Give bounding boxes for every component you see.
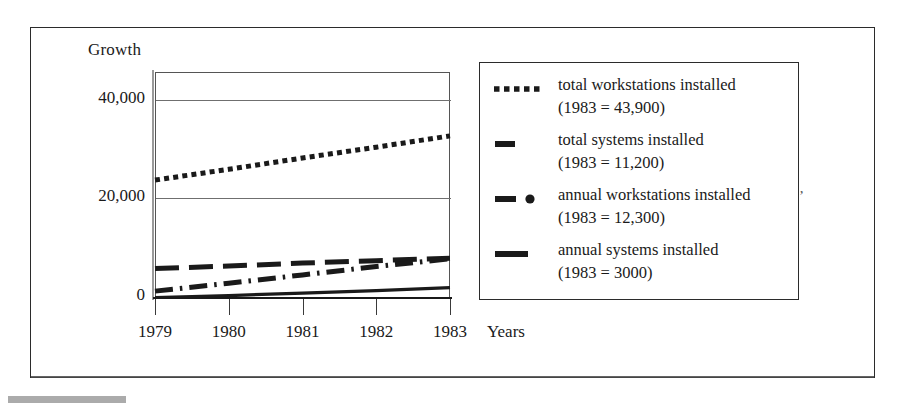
x-tick-1981 — [303, 299, 304, 315]
dotted-line-swatch — [492, 82, 548, 96]
legend: total workstations installed (1983 = 43,… — [479, 62, 799, 300]
legend-entry-annual-workstations[interactable]: annual workstations installed (1983 = 12… — [492, 185, 792, 235]
legend-sublabel: (1983 = 11,200) — [558, 151, 794, 174]
x-tick-1983 — [450, 299, 451, 315]
legend-label: annual systems installed — [558, 238, 794, 261]
series-line-0 — [155, 136, 450, 180]
legend-entry-total-systems[interactable]: total systems installed (1983 = 11,200) — [492, 130, 792, 180]
dash-dot-line-swatch — [492, 192, 548, 206]
legend-entry-annual-systems[interactable]: annual systems installed (1983 = 3000) — [492, 240, 792, 290]
y-tick-label-0: 0 — [55, 285, 145, 305]
x-tick-label-1979: 1979 — [125, 322, 185, 342]
legend-label: annual workstations installed — [558, 183, 794, 206]
legend-label: total workstations installed — [558, 73, 794, 96]
x-tick-label-1982: 1982 — [346, 322, 406, 342]
legend-sublabel: (1983 = 12,300) — [558, 206, 794, 229]
legend-text-block: annual systems installed (1983 = 3000) — [558, 238, 794, 284]
series-plot-lines — [155, 72, 450, 298]
short-dash-line-swatch — [492, 137, 548, 151]
series-line-3 — [155, 288, 450, 298]
x-tick-label-1981: 1981 — [273, 322, 333, 342]
x-tick-1980 — [229, 299, 230, 315]
y-tick-label-20000: 20,000 — [55, 186, 145, 206]
legend-sublabel: (1983 = 3000) — [558, 261, 794, 284]
x-tick-label-1983: 1983 — [420, 322, 480, 342]
x-axis-title: Years — [487, 322, 525, 342]
stray-scan-mark: ’ — [799, 188, 804, 205]
legend-text-block: total workstations installed (1983 = 43,… — [558, 73, 794, 119]
legend-label: total systems installed — [558, 128, 794, 151]
y-tick-label-40000: 40,000 — [55, 88, 145, 108]
y-axis-tick-labels: 40,000 20,000 0 — [55, 0, 145, 405]
x-tick-1979 — [155, 299, 156, 315]
legend-text-block: total systems installed (1983 = 11,200) — [558, 128, 794, 174]
solid-line-swatch — [492, 247, 548, 261]
legend-sublabel: (1983 = 43,900) — [558, 96, 794, 119]
legend-text-block: annual workstations installed (1983 = 12… — [558, 183, 794, 229]
x-tick-1982 — [376, 299, 377, 315]
x-tick-label-1980: 1980 — [199, 322, 259, 342]
legend-entry-total-workstations[interactable]: total workstations installed (1983 = 43,… — [492, 75, 792, 125]
y-axis-rule — [152, 70, 154, 300]
